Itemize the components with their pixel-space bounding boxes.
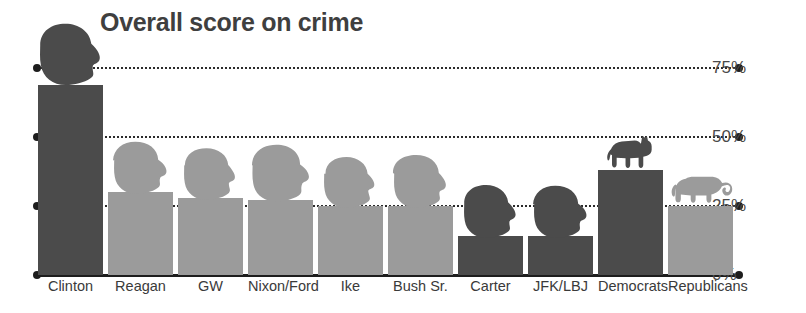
x-axis-label-carter: Carter xyxy=(458,278,523,294)
x-axis-label-nixon-ford: Nixon/Ford xyxy=(248,278,313,294)
crime-score-bar-chart: Overall score on crime 0%25%50%75%Clinto… xyxy=(0,0,806,313)
x-axis-label-republicans: Republicans xyxy=(668,278,733,294)
bar-jfk-lbj xyxy=(528,236,593,275)
y-axis-tick-label: 50% xyxy=(712,127,746,147)
gridline-50 xyxy=(38,136,738,138)
axis-dot-left-75 xyxy=(33,64,41,72)
bar-democrats xyxy=(598,170,663,275)
x-axis-label-democrats: Democrats xyxy=(598,278,663,294)
bar-bush-sr xyxy=(388,206,453,275)
bar-reagan xyxy=(108,192,173,275)
x-axis-label-reagan: Reagan xyxy=(108,278,173,294)
y-axis-tick-label: 75% xyxy=(712,58,746,78)
bar-carter xyxy=(458,236,523,275)
bar-clinton xyxy=(38,85,103,275)
bar-republicans xyxy=(668,206,733,275)
x-axis-label-gw: GW xyxy=(178,278,243,294)
x-axis-label-ike: Ike xyxy=(318,278,383,294)
x-axis-label-bush-sr: Bush Sr. xyxy=(388,278,453,294)
bar-ike xyxy=(318,206,383,275)
x-axis-label-clinton: Clinton xyxy=(38,278,103,294)
chart-title: Overall score on crime xyxy=(100,8,363,37)
bar-nixon-ford xyxy=(248,200,313,275)
x-axis-label-jfk-lbj: JFK/LBJ xyxy=(528,278,593,294)
bar-gw xyxy=(178,198,243,275)
gridline-75 xyxy=(38,67,738,69)
